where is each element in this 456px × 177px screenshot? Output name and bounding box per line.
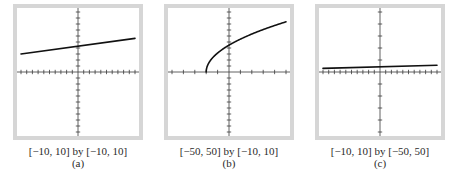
caption: [−50, 50] by [−10, 10] (b) — [152, 145, 306, 169]
graph-frame — [315, 4, 445, 140]
caption: [−10, 10] by [−10, 10] (a) — [1, 145, 155, 169]
graph-frame — [164, 4, 294, 140]
window-label: [−10, 10] by [−10, 10] — [1, 145, 155, 157]
plot-area — [168, 8, 290, 136]
function-curve — [206, 22, 286, 72]
graph-frame — [13, 4, 143, 140]
window-label: [−10, 10] by [−50, 50] — [303, 145, 456, 157]
window-label: [−50, 50] by [−10, 10] — [152, 145, 306, 157]
plot-area — [319, 8, 441, 136]
panel-label: (c) — [303, 157, 456, 169]
panel-label: (a) — [1, 157, 155, 169]
caption: [−10, 10] by [−50, 50] (c) — [303, 145, 456, 169]
panel-label: (b) — [152, 157, 306, 169]
plot-area — [17, 8, 139, 136]
